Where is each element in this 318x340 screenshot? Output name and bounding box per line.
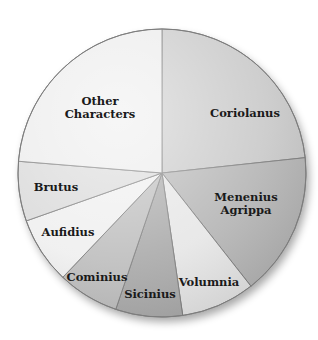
- slice-label-coriolanus: Coriolanus: [210, 106, 280, 120]
- slice-label-sicinius: Sicinius: [124, 287, 176, 301]
- pie-shading: [18, 29, 306, 317]
- slice-label-volumnia: Volumnia: [178, 275, 240, 289]
- slice-label-cominius: Cominius: [67, 270, 128, 284]
- slice-label-menenius-agrippa: MeneniusAgrippa: [214, 190, 277, 217]
- pie-chart: CoriolanusMeneniusAgrippaVolumniaSiciniu…: [0, 0, 318, 340]
- slice-label-aufidius: Aufidius: [41, 225, 95, 239]
- slice-label-brutus: Brutus: [34, 180, 78, 194]
